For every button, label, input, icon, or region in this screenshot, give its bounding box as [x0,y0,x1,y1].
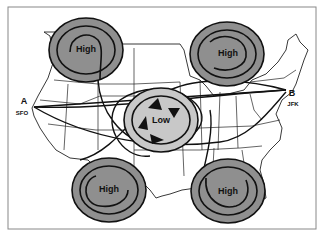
high-label-nw: High [76,44,96,54]
endpoint-a-letter: A [21,96,28,106]
weather-route-diagram: High High Low High High A SFO B JFK [0,0,325,238]
endpoint-a-code: SFO [16,110,29,116]
high-label-ne: High [218,48,238,58]
high-label-se: High [218,186,238,196]
low-label: Low [152,115,171,125]
high-label-sw: High [99,184,119,194]
high-system-sw: High [72,158,146,222]
high-system-ne: High [190,22,264,86]
high-system-nw: High [49,18,123,82]
diagram-canvas: High High Low High High A SFO B JFK [0,0,325,238]
endpoint-b-letter: B [289,88,296,98]
low-system-center: Low [124,88,198,152]
endpoint-b-code: JFK [287,101,299,107]
high-system-se: High [191,159,265,223]
